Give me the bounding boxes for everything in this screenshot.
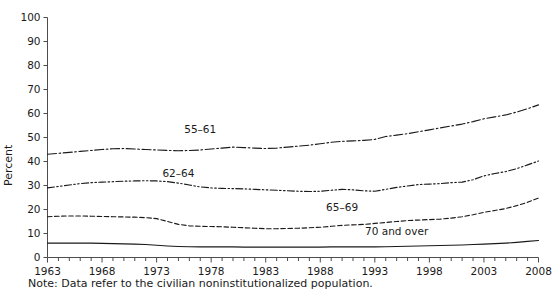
series-line-3 bbox=[48, 198, 539, 229]
x-tick-label: 1968 bbox=[89, 265, 116, 277]
series-line-2 bbox=[48, 161, 539, 191]
x-tick-label: 1998 bbox=[416, 265, 443, 277]
y-tick-label: 60 bbox=[27, 107, 40, 119]
series-label-1: 55–61 bbox=[184, 123, 216, 135]
x-tick-label: 1983 bbox=[252, 265, 279, 277]
y-tick-label: 70 bbox=[27, 83, 40, 95]
y-tick-label: 0 bbox=[34, 251, 41, 263]
y-tick-label: 90 bbox=[27, 35, 40, 47]
axis-spine bbox=[48, 18, 539, 258]
series-label-3: 65–69 bbox=[326, 201, 358, 213]
series-line-4 bbox=[48, 240, 539, 247]
y-tick-label: 50 bbox=[27, 131, 40, 143]
y-tick-label: 80 bbox=[27, 59, 40, 71]
line-chart-plot: 0102030405060708090100196319681973197819… bbox=[0, 0, 555, 298]
x-tick-label: 1963 bbox=[34, 265, 61, 277]
y-tick-label: 10 bbox=[27, 227, 40, 239]
x-tick-label: 1988 bbox=[307, 265, 334, 277]
series-label-2: 62–64 bbox=[162, 167, 194, 179]
y-tick-label: 30 bbox=[27, 179, 40, 191]
y-tick-label: 20 bbox=[27, 203, 40, 215]
series-label-4: 70 and over bbox=[365, 225, 429, 237]
chart-note: Note: Data refer to the civilian noninst… bbox=[28, 277, 373, 290]
chart-figure: Percent 01020304050607080901001963196819… bbox=[0, 0, 555, 298]
x-tick-label: 1973 bbox=[143, 265, 170, 277]
x-tick-label: 1978 bbox=[198, 265, 225, 277]
y-tick-label: 40 bbox=[27, 155, 40, 167]
y-tick-label: 100 bbox=[20, 11, 40, 23]
x-tick-label: 2008 bbox=[525, 265, 552, 277]
x-tick-label: 2003 bbox=[471, 265, 498, 277]
series-line-1 bbox=[48, 105, 539, 154]
x-tick-label: 1993 bbox=[361, 265, 388, 277]
